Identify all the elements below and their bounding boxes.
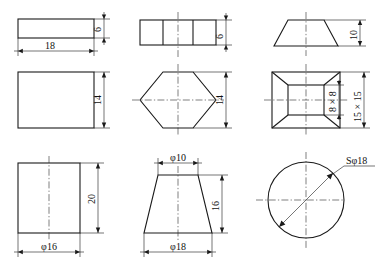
arrow-head: [102, 123, 106, 129]
dimension-label: Sφ18: [346, 155, 367, 166]
dimension-label: 14: [214, 95, 225, 105]
plate-top-outline: [18, 19, 94, 38]
dimension-label: 10: [348, 30, 359, 40]
view-pyramid-frustum-top-view: 8 × 8 15 × 15: [264, 64, 370, 136]
plate-front-outline: [18, 72, 94, 128]
arrow-head: [358, 20, 362, 25]
leader-line: [330, 166, 344, 176]
dimension-label: 8 × 8: [327, 91, 338, 112]
dimension-cylinder-height: 20: [80, 163, 104, 233]
arrow-head: [158, 161, 163, 165]
arrow-head: [75, 250, 80, 254]
dimension-sphere-diameter: Sφ18: [279, 155, 375, 227]
dimension-label: 6: [214, 34, 225, 39]
dimension-hex-prism-thickness: 6: [214, 13, 232, 52]
arrow-head: [89, 49, 94, 53]
view-pyramid-frustum-front-view: 10: [274, 12, 366, 56]
arrow-head: [224, 45, 228, 50]
dimension-label: φ10: [170, 152, 186, 163]
view-hex-prism-top-view: 6: [140, 12, 232, 57]
drawing-sheet: 6 18 14: [0, 0, 382, 272]
dimension-pyramid-height: 10: [324, 20, 366, 46]
pyramid-diagonal-top-left: [272, 72, 288, 85]
view-plate-front-view: 14: [18, 72, 110, 128]
dimension-label: φ16: [41, 241, 57, 252]
dimension-frustum-bottom-diameter: φ18: [140, 233, 216, 257]
arrow-head: [102, 72, 106, 78]
arrow-head: [224, 15, 228, 20]
arrow-head: [220, 228, 224, 234]
view-plate-top-view: 6 18: [14, 12, 110, 56]
dimension-label: 6: [92, 27, 103, 32]
arrow-head: [18, 49, 23, 53]
arrow-head: [220, 175, 224, 181]
view-sphere-view: Sφ18: [256, 152, 375, 248]
arrow-head: [358, 41, 362, 46]
dimension-frustum-height: 16: [198, 175, 228, 233]
dimension-plate-thickness: 6: [92, 12, 110, 45]
dimension-plate-width: 18: [14, 38, 98, 56]
view-cylinder-front-view: 20 φ16: [14, 156, 104, 257]
dimension-plate-height: 14: [92, 72, 110, 128]
arrow-head: [18, 250, 23, 254]
dimension-label: 14: [92, 95, 103, 105]
dimension-label: 16: [210, 201, 221, 211]
pyramid-diagonal-bottom-left: [272, 115, 288, 128]
arrow-head: [144, 250, 149, 254]
view-hex-prism-front-view: 14: [132, 64, 232, 136]
arrow-head: [207, 250, 212, 254]
dimension-label: 18: [45, 40, 55, 51]
arrow-head: [102, 38, 106, 43]
arrow-head: [96, 163, 100, 169]
arrow-head: [362, 72, 366, 78]
pyramid-diagonal-top-right: [324, 72, 340, 85]
arrow-head: [96, 228, 100, 234]
pyramid-diagonal-bottom-right: [324, 115, 340, 128]
arrow-head: [193, 161, 198, 165]
arrow-head: [102, 14, 106, 19]
arrow-head: [224, 72, 228, 78]
dimension-label: 15 × 15: [352, 91, 363, 122]
arrow-head: [224, 123, 228, 129]
dimension-label: 20: [86, 194, 97, 204]
view-cone-frustum-front-view: φ10 16 φ18: [140, 152, 228, 257]
dimension-label: φ18: [170, 241, 186, 252]
arrow-head: [362, 123, 366, 129]
